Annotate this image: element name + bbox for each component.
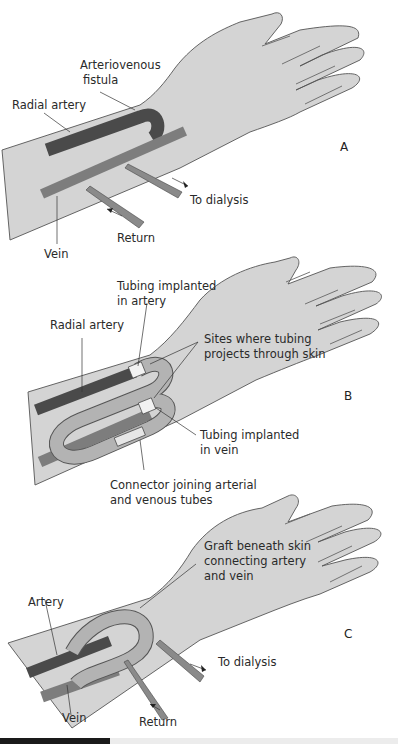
dialysis-access-diagram: Arteriovenous fistula Radial artery To d… (0, 0, 398, 744)
label-radial-artery-b: Radial artery (50, 318, 124, 332)
label-graft-1: Graft beneath skin (204, 539, 311, 553)
label-connector-2: and venous tubes (110, 493, 213, 507)
label-tubing-vein-1: Tubing implanted (199, 428, 299, 442)
panel-c: Graft beneath skin connecting artery and… (8, 495, 381, 729)
label-return-a: Return (117, 231, 155, 245)
label-tubing-artery-2: in artery (117, 294, 166, 308)
label-vein-c: Vein (62, 711, 87, 725)
panel-b: Tubing implanted in artery Radial artery… (28, 257, 382, 507)
label-artery-c: Artery (28, 595, 64, 609)
panel-label-c: C (344, 627, 352, 641)
footer-bar (0, 738, 110, 744)
panel-a: Arteriovenous fistula Radial artery To d… (2, 13, 364, 261)
label-graft-2: connecting artery (204, 554, 306, 568)
arm-a (2, 13, 364, 240)
label-sites-2: projects through skin (204, 347, 326, 361)
label-tubing-vein-2: in vein (200, 443, 239, 457)
label-tubing-artery-1: Tubing implanted (116, 279, 216, 293)
panel-label-a: A (340, 140, 349, 154)
label-fistula-2: fistula (83, 73, 118, 87)
label-vein-a: Vein (44, 247, 69, 261)
panel-label-b: B (344, 389, 352, 403)
label-fistula-1: Arteriovenous (80, 58, 161, 72)
label-graft-3: and vein (204, 569, 254, 583)
label-sites-1: Sites where tubing (204, 332, 312, 346)
label-to-dialysis-c: To dialysis (217, 655, 276, 669)
label-return-c: Return (139, 715, 177, 729)
label-radial-artery-a: Radial artery (12, 98, 86, 112)
footer-rule (110, 738, 398, 744)
label-connector-1: Connector joining arterial (110, 478, 257, 492)
label-to-dialysis-a: To dialysis (189, 193, 248, 207)
